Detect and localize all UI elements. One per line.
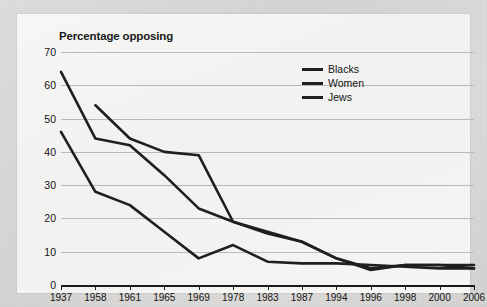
x-axis-tick: [474, 285, 475, 290]
y-axis-labels: 706050403020100: [31, 52, 56, 285]
legend-swatch-icon: [302, 82, 323, 85]
x-axis-tick: [336, 285, 337, 290]
chart-legend: Blacks Women Jews: [302, 63, 364, 104]
y-axis-tick-label: 70: [44, 46, 56, 58]
legend-label: Jews: [328, 91, 352, 104]
legend-item-jews: Jews: [302, 91, 364, 104]
x-axis-tick-label: 1961: [119, 292, 141, 303]
x-axis-tick: [268, 285, 269, 290]
x-axis-tick: [233, 285, 234, 290]
x-axis-tick-label: 1987: [291, 292, 313, 303]
x-axis-tick-label: 1978: [222, 292, 244, 303]
x-axis-tick-label: 1996: [360, 292, 382, 303]
y-axis-tick-label: 60: [44, 79, 56, 91]
chart-panel: Percentage opposing 706050403020100 Blac…: [17, 14, 470, 293]
x-axis-tick-label: 1969: [188, 292, 210, 303]
y-axis-tick-label: 20: [44, 212, 56, 224]
x-axis-tick: [440, 285, 441, 290]
x-axis-tick: [130, 285, 131, 290]
legend-item-women: Women: [302, 77, 364, 90]
legend-label: Blacks: [328, 63, 359, 76]
legend-label: Women: [328, 77, 364, 90]
x-axis-tick: [61, 285, 62, 290]
y-axis-tick-label: 10: [44, 246, 56, 258]
x-axis-tick-label: 1983: [256, 292, 278, 303]
x-axis-tick-label: 2006: [463, 292, 485, 303]
x-axis-tick-label: 2000: [428, 292, 450, 303]
series-line-jews: [61, 132, 474, 268]
series-lines: [61, 52, 474, 285]
legend-item-blacks: Blacks: [302, 63, 364, 76]
legend-swatch-icon: [302, 96, 323, 99]
x-axis-tick: [164, 285, 165, 290]
x-axis-tick-label: 1937: [50, 292, 72, 303]
y-axis-tick-label: 40: [44, 146, 56, 158]
chart-title: Percentage opposing: [59, 30, 173, 42]
y-axis-tick-label: 0: [50, 279, 56, 291]
x-axis-tick: [302, 285, 303, 290]
y-axis-tick-label: 30: [44, 179, 56, 191]
x-axis-tick-label: 1994: [325, 292, 347, 303]
y-axis-tick-label: 50: [44, 113, 56, 125]
legend-swatch-icon: [302, 68, 323, 71]
x-axis-tick-label: 1965: [153, 292, 175, 303]
x-axis-tick: [371, 285, 372, 290]
chart-screenshot: Percentage opposing 706050403020100 Blac…: [0, 0, 487, 307]
x-axis-tick: [95, 285, 96, 290]
x-axis-tick: [405, 285, 406, 290]
series-line-blacks: [95, 105, 474, 268]
x-axis-tick-label: 1958: [84, 292, 106, 303]
series-line-women: [61, 72, 474, 270]
x-axis-tick-label: 1998: [394, 292, 416, 303]
x-axis-tick: [199, 285, 200, 290]
plot-area: [61, 52, 474, 285]
